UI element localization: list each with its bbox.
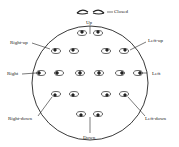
eye-icons: [37, 31, 143, 117]
label-right: Right: [7, 71, 18, 77]
closed-eyes-icon: [77, 10, 104, 14]
label-left: Left: [152, 71, 160, 77]
label-down: Down: [83, 135, 95, 141]
label-left-down: Left-down: [145, 116, 166, 122]
label-up: Up: [86, 20, 92, 26]
label-right-up: Right-up: [10, 40, 28, 46]
gaze-direction-diagram: Closed Up Right-up Left-up Right Left Ri…: [0, 0, 179, 147]
label-left-up: Left-up: [148, 38, 163, 44]
label-right-down: Right-down: [8, 116, 32, 122]
label-closed: Closed: [114, 9, 128, 15]
